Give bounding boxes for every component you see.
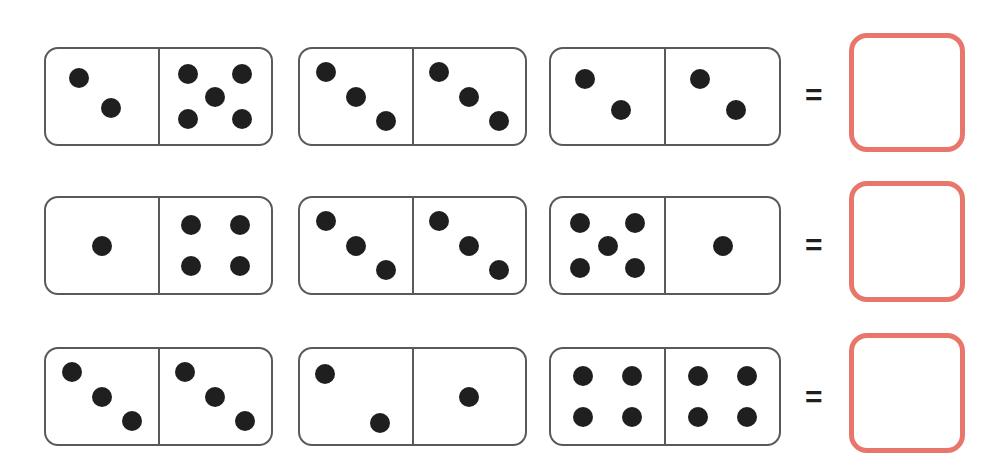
domino-pip xyxy=(370,413,390,433)
domino-pip xyxy=(489,260,509,280)
domino-half-right xyxy=(160,349,272,444)
domino-pip xyxy=(122,411,142,431)
domino-pip xyxy=(181,256,201,276)
domino-pip xyxy=(625,258,645,278)
domino-tile xyxy=(549,347,781,446)
domino-pip xyxy=(429,211,449,231)
domino-pip xyxy=(688,407,708,427)
domino-pip xyxy=(737,407,757,427)
domino-pip xyxy=(713,236,733,256)
domino-half-left xyxy=(551,349,666,444)
domino-pip xyxy=(230,256,250,276)
domino-pip xyxy=(92,387,112,407)
domino-pip xyxy=(570,258,590,278)
domino-pip xyxy=(62,362,82,382)
domino-pip xyxy=(181,215,201,235)
domino-pip xyxy=(737,366,757,386)
domino-pip xyxy=(346,236,366,256)
domino-half-right xyxy=(414,198,526,293)
domino-half-left xyxy=(551,198,666,293)
domino-pip xyxy=(459,387,479,407)
equals-sign: = xyxy=(805,382,823,412)
domino-pip xyxy=(688,366,708,386)
domino-half-right xyxy=(666,349,779,444)
domino-pip xyxy=(235,411,255,431)
answer-box[interactable] xyxy=(849,333,965,453)
equals-sign: = xyxy=(805,230,823,260)
domino-pip xyxy=(315,364,335,384)
domino-half-right xyxy=(666,198,779,293)
domino-pip xyxy=(92,236,112,256)
domino-half-right xyxy=(160,198,272,293)
domino-pip xyxy=(573,366,593,386)
domino-worksheet: === xyxy=(0,0,1002,473)
domino-tile xyxy=(549,196,781,295)
domino-pip xyxy=(316,211,336,231)
answer-box[interactable] xyxy=(849,181,965,302)
domino-half-left xyxy=(46,198,160,293)
domino-tile xyxy=(44,347,273,446)
domino-pip xyxy=(625,213,645,233)
domino-pip xyxy=(230,215,250,235)
domino-half-left xyxy=(300,349,414,444)
domino-pip xyxy=(376,260,396,280)
domino-pip xyxy=(622,407,642,427)
domino-pip xyxy=(459,236,479,256)
domino-pip xyxy=(598,236,618,256)
domino-pip xyxy=(573,407,593,427)
domino-pip xyxy=(175,362,195,382)
domino-half-left xyxy=(46,349,160,444)
domino-pip xyxy=(622,366,642,386)
domino-pip xyxy=(205,387,225,407)
domino-tile xyxy=(298,347,527,446)
domino-half-left xyxy=(300,198,414,293)
domino-pip xyxy=(570,213,590,233)
domino-half-right xyxy=(414,349,526,444)
equation-row: = xyxy=(0,0,1002,120)
domino-tile xyxy=(298,196,527,295)
domino-tile xyxy=(44,196,273,295)
